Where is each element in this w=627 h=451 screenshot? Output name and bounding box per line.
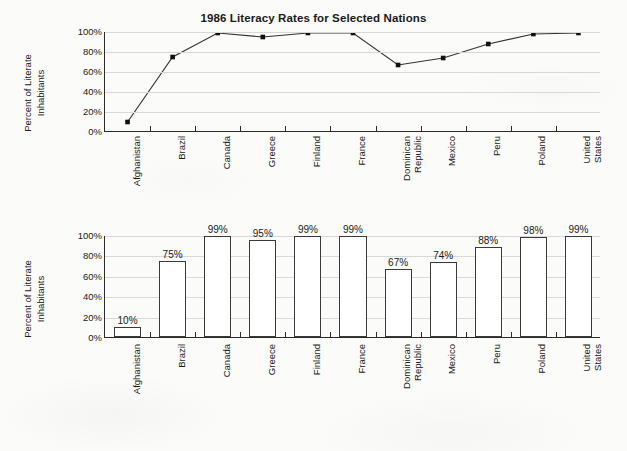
bar-value-label: 99%	[555, 224, 602, 235]
line-chart-category-labels: AfghanistanBrazilCanadaGreeceFinlandFran…	[104, 136, 600, 228]
line-chart-y-ticks: 100%80%60%40%20%0%	[52, 32, 102, 138]
line-series-path	[128, 33, 579, 122]
category-label: Brazil	[177, 344, 188, 436]
bar	[159, 261, 186, 338]
bar	[294, 236, 321, 337]
category-label: Dominican Republic	[402, 136, 423, 228]
x-tick	[511, 332, 512, 337]
line-chart-plot-area	[104, 32, 600, 132]
gridline	[105, 72, 600, 73]
y-tick-label: 0%	[58, 127, 102, 136]
x-tick	[330, 126, 331, 131]
gridline	[105, 32, 600, 33]
data-point-marker	[125, 120, 130, 125]
category-label: Poland	[537, 344, 548, 436]
category-label: Canada	[222, 136, 233, 228]
bar	[114, 327, 141, 337]
y-tick-label: 60%	[58, 67, 102, 76]
data-point-marker	[261, 35, 266, 40]
x-tick	[150, 332, 151, 337]
bar-value-label: 98%	[510, 225, 557, 236]
bar-value-label: 74%	[420, 250, 467, 261]
category-label: Mexico	[447, 136, 458, 228]
category-label: Greece	[267, 136, 278, 228]
bar-value-label: 95%	[239, 228, 286, 239]
bar-value-label: 99%	[329, 224, 376, 235]
x-tick	[240, 126, 241, 131]
bar	[385, 269, 412, 337]
gridline	[105, 112, 600, 113]
category-label: Mexico	[447, 344, 458, 436]
bar-chart-y-axis-label-line2: Inhabitants	[35, 240, 51, 358]
x-tick	[195, 332, 196, 337]
bar-value-label: 88%	[465, 235, 512, 246]
bar	[565, 236, 592, 337]
data-point-marker	[486, 42, 491, 47]
category-label: France	[357, 136, 368, 228]
y-tick-label: 40%	[58, 87, 102, 96]
x-tick	[376, 332, 377, 337]
x-tick	[376, 126, 377, 131]
category-label: United States	[582, 136, 603, 228]
x-tick	[511, 126, 512, 131]
category-label: United States	[582, 344, 603, 436]
line-chart-series	[105, 32, 601, 132]
bar-value-label: 67%	[375, 257, 422, 268]
x-tick	[330, 332, 331, 337]
y-tick-label: 80%	[58, 47, 102, 56]
bar	[475, 247, 502, 337]
bar	[249, 240, 276, 337]
category-label: Finland	[312, 136, 323, 228]
x-tick	[466, 126, 467, 131]
x-tick	[285, 126, 286, 131]
bar	[430, 262, 457, 337]
x-tick	[466, 332, 467, 337]
page-title: 1986 Literacy Rates for Selected Nations	[0, 12, 627, 24]
category-label: Peru	[492, 136, 503, 228]
data-point-marker	[441, 56, 446, 61]
category-label: Afghanistan	[132, 136, 143, 228]
x-tick	[421, 126, 422, 131]
x-tick	[240, 332, 241, 337]
data-point-marker	[170, 55, 175, 60]
bar	[204, 236, 231, 337]
bar-chart-category-labels: AfghanistanBrazilCanadaGreeceFinlandFran…	[104, 344, 600, 436]
bar	[520, 237, 547, 337]
y-tick-label: 40%	[58, 292, 102, 301]
gridline	[105, 52, 600, 53]
bar-chart-plot-area: 10%75%99%95%99%99%67%74%88%98%99%	[104, 236, 600, 338]
x-tick	[421, 332, 422, 337]
y-tick-label: 20%	[58, 107, 102, 116]
bar-value-label: 75%	[149, 249, 196, 260]
x-tick	[285, 332, 286, 337]
category-label: Canada	[222, 344, 233, 436]
x-tick	[556, 126, 557, 131]
bar	[339, 236, 366, 337]
category-label: Finland	[312, 344, 323, 436]
x-tick	[195, 126, 196, 131]
category-label: Poland	[537, 136, 548, 228]
category-label: Dominican Republic	[402, 344, 423, 436]
line-chart-y-axis-label-line2: Inhabitants	[35, 34, 51, 152]
y-tick-label: 60%	[58, 272, 102, 281]
y-tick-label: 20%	[58, 313, 102, 322]
y-tick-label: 0%	[58, 333, 102, 342]
x-tick	[556, 332, 557, 337]
bar-value-label: 10%	[104, 315, 151, 326]
category-label: Peru	[492, 344, 503, 436]
category-label: France	[357, 344, 368, 436]
x-tick	[150, 126, 151, 131]
y-tick-label: 100%	[58, 231, 102, 240]
y-tick-label: 80%	[58, 251, 102, 260]
y-tick-label: 100%	[58, 27, 102, 36]
category-label: Afghanistan	[132, 344, 143, 436]
gridline	[105, 92, 600, 93]
category-label: Greece	[267, 344, 278, 436]
bar-value-label: 99%	[194, 224, 241, 235]
bar-value-label: 99%	[284, 224, 331, 235]
category-label: Brazil	[177, 136, 188, 228]
data-point-marker	[396, 63, 401, 68]
bar-chart-y-ticks: 100%80%60%40%20%0%	[52, 236, 102, 342]
